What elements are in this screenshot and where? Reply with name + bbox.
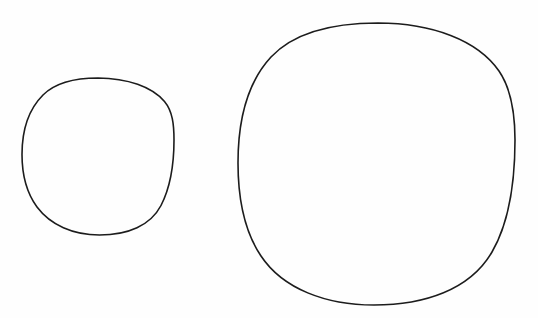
- figure-background: [0, 0, 538, 318]
- two-circles-figure: Two circles diagram A hand-drawn style l…: [0, 0, 538, 318]
- figure-canvas: Two circles diagram A hand-drawn style l…: [0, 0, 538, 318]
